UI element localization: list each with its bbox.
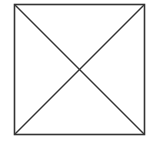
square-diagram <box>0 0 154 143</box>
diagram-canvas <box>0 0 154 143</box>
